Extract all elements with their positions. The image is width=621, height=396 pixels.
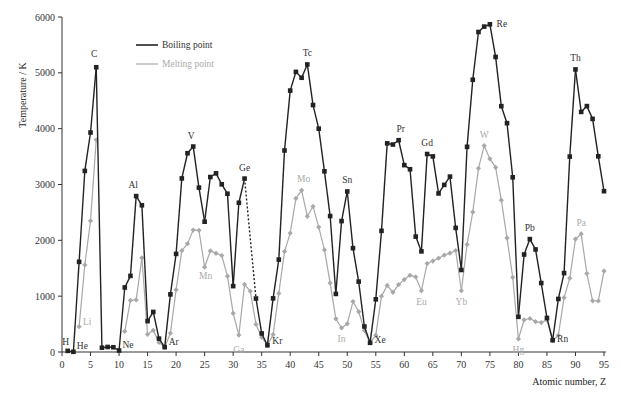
boiling-point-marker bbox=[339, 219, 344, 224]
boiling-point-marker bbox=[516, 315, 521, 320]
boiling-point-marker bbox=[282, 148, 287, 153]
series-segment bbox=[564, 157, 570, 274]
element-label-mo: Mo bbox=[297, 174, 310, 184]
boiling-point-marker bbox=[505, 121, 510, 126]
boiling-point-marker bbox=[396, 138, 401, 143]
x-tick-label: 90 bbox=[570, 359, 580, 370]
element-label-w: W bbox=[480, 130, 489, 140]
series-segment bbox=[570, 69, 576, 156]
boiling-point-marker bbox=[345, 189, 350, 194]
boiling-point-marker bbox=[305, 62, 310, 67]
boiling-point-marker bbox=[265, 343, 270, 348]
boiling-point-marker bbox=[111, 345, 116, 350]
series-segment bbox=[233, 313, 239, 335]
y-tick-label: 6000 bbox=[35, 12, 55, 23]
series-segment bbox=[199, 230, 205, 267]
melting-point-marker bbox=[596, 298, 601, 303]
series-segment bbox=[324, 250, 330, 283]
melting-point-marker bbox=[499, 198, 504, 203]
series-segment bbox=[347, 191, 353, 248]
element-label-eu: Eu bbox=[416, 297, 427, 307]
boiling-point-marker bbox=[334, 292, 339, 297]
series-segment bbox=[558, 273, 564, 299]
boiling-point-marker bbox=[556, 297, 561, 302]
series-segment bbox=[467, 212, 473, 244]
boiling-point-marker bbox=[237, 200, 242, 205]
series-segment bbox=[176, 178, 182, 253]
melting-point-marker bbox=[196, 228, 201, 233]
boiling-point-marker bbox=[590, 117, 595, 122]
series-segment bbox=[513, 177, 519, 317]
series-segment bbox=[467, 80, 473, 147]
series-segment bbox=[182, 153, 188, 178]
x-tick-label: 15 bbox=[143, 359, 153, 370]
boiling-point-marker bbox=[157, 336, 162, 341]
legend-boiling-label: Boiling point bbox=[162, 40, 213, 50]
series-segment bbox=[575, 69, 581, 111]
melting-point-marker bbox=[419, 288, 424, 293]
boiling-point-marker bbox=[448, 174, 453, 179]
boiling-point-marker bbox=[413, 234, 418, 239]
element-label-pb: Pb bbox=[525, 223, 535, 233]
melting-point-marker bbox=[168, 331, 173, 336]
boiling-point-marker bbox=[94, 65, 99, 70]
melting-point-marker bbox=[134, 297, 139, 302]
series-segment bbox=[376, 231, 382, 299]
x-tick-label: 65 bbox=[428, 359, 438, 370]
element-label-pa: Pa bbox=[576, 218, 586, 228]
melting-point-marker bbox=[590, 298, 595, 303]
series-segment bbox=[581, 234, 587, 274]
boiling-point-marker bbox=[431, 154, 436, 159]
melting-point-marker bbox=[533, 319, 538, 324]
boiling-point-marker bbox=[162, 345, 167, 350]
melting-point-marker bbox=[482, 143, 487, 148]
series-segment bbox=[524, 239, 530, 254]
element-annotations: HHeLiCNeAlArVMnGaGeKrMoTcInSnXePrEuGdYbW… bbox=[62, 19, 586, 355]
boiling-point-marker bbox=[425, 152, 430, 157]
melting-point-marker bbox=[322, 247, 327, 252]
melting-point-marker bbox=[425, 261, 430, 266]
boiling-point-marker bbox=[254, 296, 259, 301]
boiling-point-marker bbox=[453, 226, 458, 231]
boiling-point-marker bbox=[185, 151, 190, 156]
series-segment bbox=[91, 67, 97, 132]
boiling-point-marker bbox=[328, 214, 333, 219]
series-segment bbox=[410, 169, 416, 236]
element-label-h: H bbox=[62, 337, 69, 347]
melting-point-marker bbox=[539, 320, 544, 325]
boiling-point-marker bbox=[562, 271, 567, 276]
element-label-ar: Ar bbox=[169, 337, 180, 347]
series-segment bbox=[421, 154, 427, 251]
boiling-point-marker bbox=[316, 126, 321, 131]
boiling-point-marker bbox=[356, 279, 361, 284]
boiling-point-marker bbox=[499, 104, 504, 109]
series-segment bbox=[256, 299, 262, 334]
series-segment bbox=[478, 146, 484, 169]
boiling-point-marker bbox=[522, 252, 527, 257]
boiling-point-marker bbox=[351, 246, 356, 251]
boiling-point-marker bbox=[71, 349, 76, 354]
boiling-point-marker bbox=[231, 284, 236, 289]
element-label-tc: Tc bbox=[303, 48, 312, 58]
boiling-point-marker bbox=[180, 176, 185, 181]
boiling-point-marker bbox=[385, 141, 390, 146]
boiling-point-marker bbox=[288, 88, 293, 93]
series-segment bbox=[587, 274, 593, 301]
series-segment bbox=[91, 140, 97, 221]
melting-point-marker bbox=[122, 329, 127, 334]
series-segment bbox=[319, 129, 325, 172]
melting-point-marker bbox=[430, 258, 435, 263]
series-segment bbox=[188, 230, 194, 244]
series-segment bbox=[473, 168, 479, 212]
boiling-point-marker bbox=[219, 182, 224, 187]
boiling-point-marker bbox=[259, 331, 264, 336]
series-segment bbox=[285, 91, 291, 151]
melting-point-marker bbox=[453, 248, 458, 253]
element-label-yb: Yb bbox=[456, 297, 468, 307]
boiling-point-marker bbox=[579, 110, 584, 115]
boiling-point-marker bbox=[151, 310, 156, 315]
series-segment bbox=[342, 191, 348, 221]
series-segment bbox=[176, 251, 182, 290]
series-segment bbox=[416, 277, 422, 291]
series-segment bbox=[222, 256, 228, 277]
